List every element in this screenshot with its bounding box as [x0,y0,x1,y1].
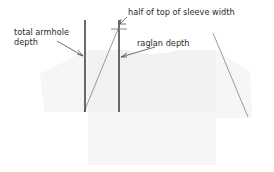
raglan-depth-label: raglan depth [137,38,190,48]
text-labels: total armhole depth half of top of sleev… [14,7,235,48]
raglan-diagram: total armhole depth half of top of sleev… [0,0,274,172]
total-armhole-depth-label-line2: depth [14,37,38,47]
total-armhole-depth-leader [57,41,83,56]
garment-left-sleeve [40,50,88,112]
diagram-canvas: total armhole depth half of top of sleev… [0,0,274,172]
garment-lower-body [88,112,216,165]
garment-silhouette [40,50,252,165]
half-top-sleeve-width-label: half of top of sleeve width [128,7,235,17]
total-armhole-depth-label-line1: total armhole [14,27,69,37]
